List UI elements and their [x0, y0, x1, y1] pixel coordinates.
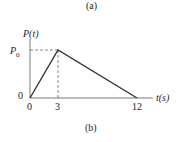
p0-tick-label: P0	[10, 46, 20, 59]
pulse-line	[30, 50, 137, 98]
x-axis-label: t(s)	[156, 93, 169, 103]
triangular-pulse-plot	[0, 0, 184, 142]
x-twelve-label: 12	[132, 102, 142, 112]
y-zero-label: 0	[18, 91, 23, 101]
caption-b: (b)	[85, 123, 97, 133]
x-zero-label: 0	[27, 102, 32, 112]
x-three-label: 3	[55, 102, 60, 112]
y-axis-label: P(t)	[23, 29, 39, 39]
